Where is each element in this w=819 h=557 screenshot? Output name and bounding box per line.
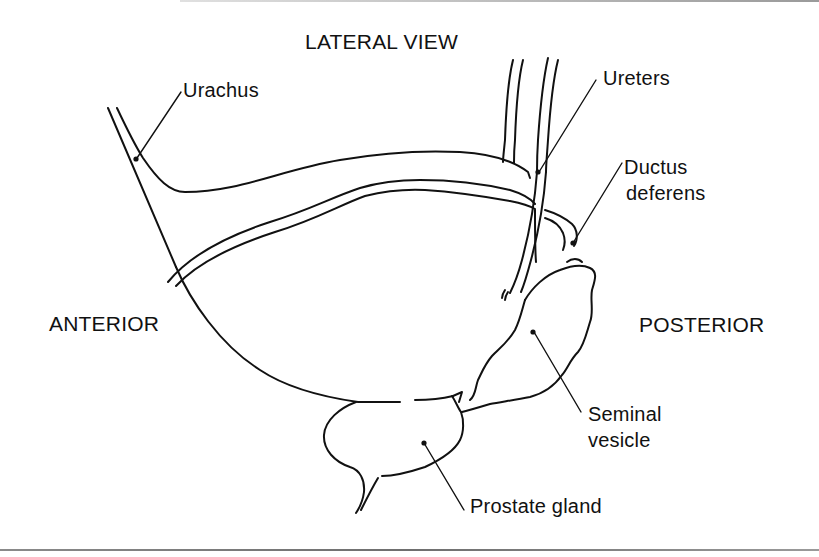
ductus-leader — [573, 163, 622, 243]
urachus-leader — [137, 92, 181, 158]
anterior-label: ANTERIOR — [49, 312, 159, 336]
prostate-gland-label: Prostate gland — [470, 494, 602, 518]
seminal-vesicle-label-line2: vesicle — [588, 428, 651, 452]
bladder-anatomy-drawing — [0, 0, 819, 557]
ureters-leader — [539, 80, 596, 172]
diagram-canvas: LATERAL VIEW ANTERIOR POSTERIOR Urachus … — [0, 0, 819, 557]
ductus-deferens-label-line1: Ductus — [624, 155, 687, 179]
prostate-gland-shape — [324, 392, 463, 513]
bladder-outline — [176, 267, 453, 402]
prostate-leader — [424, 443, 464, 510]
posterior-label: POSTERIOR — [639, 313, 764, 337]
seminal-vesicle-label-line1: Seminal — [588, 402, 662, 426]
ductus-deferens-path — [168, 180, 577, 286]
leader-lines — [137, 80, 622, 510]
urachus-label: Urachus — [183, 78, 259, 102]
ductus-deferens-label-line2: deferens — [626, 181, 705, 205]
urachus-shape — [108, 108, 530, 267]
ureters-label: Ureters — [603, 66, 670, 90]
seminal-leader — [534, 332, 581, 412]
diagram-title: LATERAL VIEW — [305, 30, 458, 54]
